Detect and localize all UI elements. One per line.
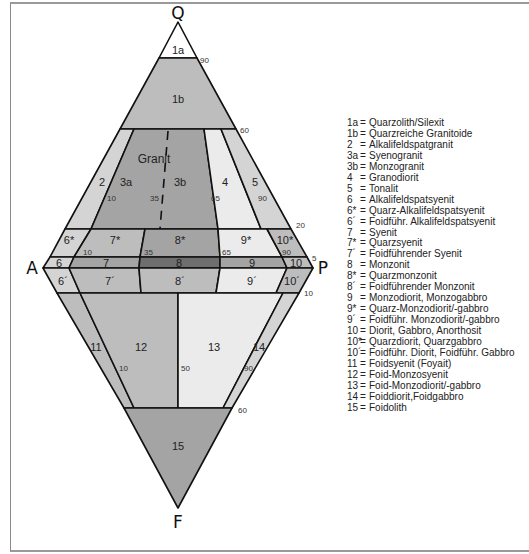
vertex-f: F [173,512,183,532]
region-15 [124,408,232,508]
legend-equals: = [360,195,369,206]
tick-q60: 60 [240,126,249,135]
tick-p35-mid: 35 [144,248,153,257]
tick-p10-lower: 10 [119,364,128,373]
legend-item: 6=Alkalifeldspatsyenit [347,195,515,206]
legend-item: 15=Foidolith [347,403,515,414]
label-9-prime: 9´ [247,275,257,287]
label-10-star: 10* [277,234,294,246]
label-8: 8 [176,257,182,269]
vertex-a: A [26,258,38,278]
label-1b: 1b [172,93,184,105]
region-13 [178,293,283,408]
tick-q20: 20 [296,221,305,230]
legend-item: 6´=Foidführ. Alkalifeldspatsyenit [347,217,515,228]
label-12: 12 [135,341,147,353]
legend-equals: = [360,217,369,228]
label-8-prime: 8´ [175,275,185,287]
tick-q5: 5 [312,254,317,263]
legend-text: Quarz-Alkalifeldspatsyenit [369,206,485,217]
legend-code: 15 [347,403,360,414]
legend-code: 6* [347,206,360,217]
tick-p65-mid: 65 [222,248,231,257]
legend-text: Foidolith [369,403,407,414]
label-6-prime: 6´ [58,275,68,287]
tick-q90: 90 [200,56,209,65]
legend-equals: = [360,206,369,217]
vertex-q: Q [171,3,184,23]
legend-text: Alkalifeldspatsyenit [369,195,454,206]
label-7: 7 [103,257,109,269]
tick-p10-upper: 10 [107,194,116,203]
tick-f60: 60 [238,406,247,415]
legend-code: 6 [347,195,360,206]
label-3b: 3b [174,176,186,188]
tick-f10: 10 [304,289,313,298]
label-8-star: 8* [175,234,186,246]
label-9: 9 [249,257,255,269]
legend-item: 6*=Quarz-Alkalifeldspatsyenit [347,206,515,217]
label-6: 6 [56,257,62,269]
label-granit: Granit [138,152,171,166]
legend-equals: = [360,403,369,414]
tick-p65-upper: 65 [211,194,220,203]
tick-p35-upper: 35 [150,194,159,203]
tick-p90-upper: 90 [258,194,267,203]
tick-p10-mid: 10 [83,248,92,257]
label-7-star: 7* [110,234,121,246]
label-15: 15 [172,440,184,452]
tick-p90-lower: 90 [244,364,253,373]
label-3a: 3a [120,176,133,188]
label-14: 14 [253,341,265,353]
tick-p50-lower: 50 [181,364,190,373]
label-4: 4 [222,176,228,188]
label-6-star: 6* [64,234,75,246]
label-5: 5 [252,176,258,188]
label-2: 2 [99,176,105,188]
label-10-prime: 10´ [284,275,300,287]
label-11: 11 [90,341,101,353]
legend: 1a=Quarzolith/Silexit1b=Quarzreiche Gran… [347,118,515,414]
label-7-prime: 7´ [105,275,115,287]
label-9-star: 9* [241,234,252,246]
tick-p90-mid: 90 [282,248,291,257]
label-13: 13 [208,341,220,353]
label-10: 10 [290,257,302,269]
label-1a: 1a [172,44,185,56]
legend-code: 6´ [347,217,360,228]
vertex-p: P [318,258,328,278]
legend-text: Foidführ. Alkalifeldspatsyenit [369,217,495,228]
